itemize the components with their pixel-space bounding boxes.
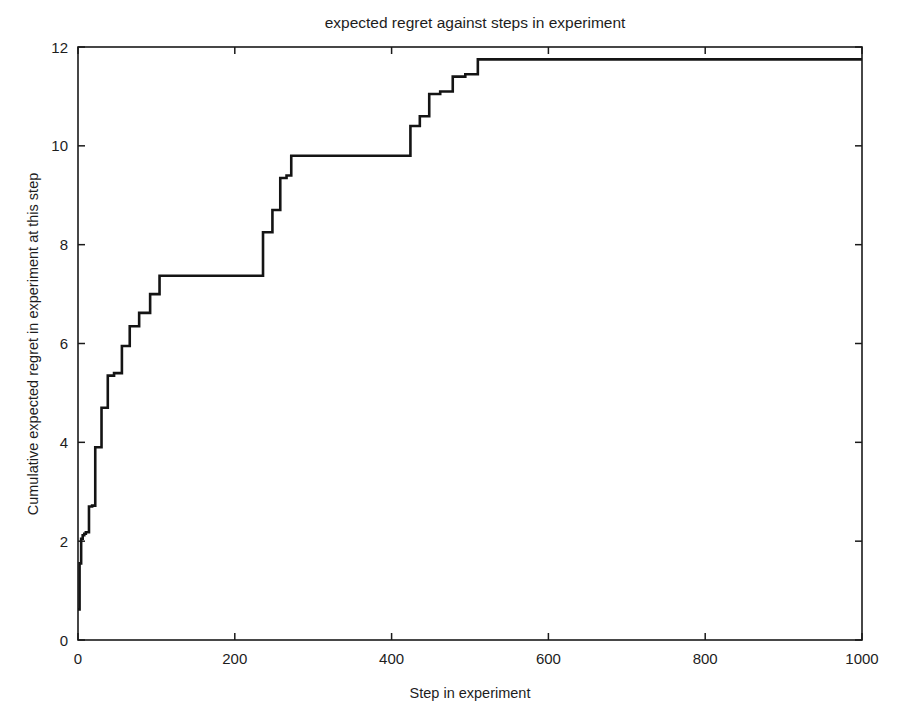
y-tick-label: 0 bbox=[60, 632, 68, 649]
y-tick-label: 10 bbox=[51, 137, 68, 154]
x-axis-label: Step in experiment bbox=[410, 685, 531, 701]
x-axis-tick-labels: 02004006008001000 bbox=[74, 650, 879, 667]
x-tick-label: 800 bbox=[693, 650, 718, 667]
x-tick-label: 200 bbox=[222, 650, 247, 667]
x-tick-label: 400 bbox=[379, 650, 404, 667]
x-tick-label: 0 bbox=[74, 650, 82, 667]
axes-frame bbox=[78, 47, 862, 640]
y-axis-label: Cumulative expected regret in experiment… bbox=[25, 173, 41, 516]
y-tick-label: 6 bbox=[60, 335, 68, 352]
chart-title: expected regret against steps in experim… bbox=[325, 14, 626, 31]
y-tick-label: 12 bbox=[51, 39, 68, 56]
chart-figure: expected regret against steps in experim… bbox=[0, 0, 899, 728]
x-tick-label: 1000 bbox=[845, 650, 878, 667]
y-tick-label: 2 bbox=[60, 533, 68, 550]
y-tick-label: 4 bbox=[60, 434, 68, 451]
x-axis-ticks bbox=[78, 47, 862, 640]
y-axis-ticks bbox=[78, 47, 862, 640]
data-series-group bbox=[78, 59, 862, 609]
y-tick-label: 8 bbox=[60, 236, 68, 253]
chart-canvas: expected regret against steps in experim… bbox=[0, 0, 899, 728]
x-tick-label: 600 bbox=[536, 650, 561, 667]
data-series-line bbox=[78, 59, 862, 609]
y-axis-tick-labels: 024681012 bbox=[51, 39, 68, 649]
